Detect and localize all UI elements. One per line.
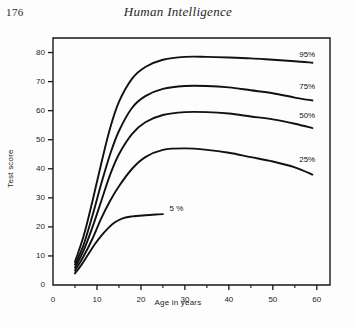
x-axis-title: Age in years xyxy=(0,298,356,307)
y-tick-label: 0 xyxy=(23,280,45,289)
curve-label-5pct: 5 % xyxy=(170,204,184,213)
y-tick-label: 10 xyxy=(23,251,45,260)
y-axis-title: Test score xyxy=(6,137,15,201)
y-tick-label: 60 xyxy=(23,106,45,115)
curve-5pct xyxy=(75,214,163,273)
y-tick-label: 70 xyxy=(23,77,45,86)
y-tick-label: 20 xyxy=(23,222,45,231)
book-page: 176 Human Intelligence 01020304050607080… xyxy=(0,0,356,329)
curve-label-95pct: 95% xyxy=(299,50,315,59)
y-tick-label: 40 xyxy=(23,164,45,173)
running-head: Human Intelligence xyxy=(0,4,356,20)
curve-label-25pct: 25% xyxy=(299,155,315,164)
curve-25pct xyxy=(75,148,312,270)
chart-canvas xyxy=(0,30,356,329)
curve-50pct xyxy=(75,112,312,268)
curve-95pct xyxy=(75,57,312,262)
y-tick-label: 50 xyxy=(23,135,45,144)
curve-label-75pct: 75% xyxy=(299,82,315,91)
y-tick-label: 80 xyxy=(23,48,45,57)
percentile-curves xyxy=(75,57,312,274)
curve-label-50pct: 50% xyxy=(299,111,315,120)
figure-percentile-growth-chart: 01020304050607080 0102030405060 95%75%50… xyxy=(0,30,356,329)
plot-frame xyxy=(53,38,330,285)
y-tick-label: 30 xyxy=(23,193,45,202)
